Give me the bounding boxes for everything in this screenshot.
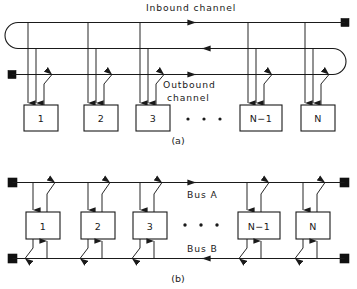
node3-b-rise-to-bus-a <box>154 183 162 213</box>
panel-a-ellipsis <box>186 117 221 120</box>
figure-root: Inbound channel Outbound channel 1 <box>0 0 357 289</box>
inbound-right-uturn <box>333 49 346 75</box>
panel-b-node-n-minus-1: N−1 <box>238 183 280 259</box>
nodeN-a-rise-outbound <box>321 75 329 106</box>
panel-a-node-3: 3 <box>136 23 170 132</box>
node1-b-drop-to-bus-b <box>25 239 33 259</box>
nodeN-a-label: N <box>314 113 322 124</box>
panel-b-ellipsis <box>183 223 218 226</box>
nodeN1-b-label: N−1 <box>248 221 270 232</box>
panel-a-node-2: 2 <box>84 23 118 132</box>
bus-b-label: Bus B <box>187 243 218 254</box>
node3-b-label: 3 <box>147 221 153 232</box>
panel-b-node-n: N <box>295 183 330 259</box>
node3-b-drop-to-bus-b <box>132 239 140 259</box>
inbound-left-uturn <box>5 23 18 49</box>
nodeN1-a-label: N−1 <box>250 113 272 124</box>
nodeN-b-label: N <box>309 221 317 232</box>
node2-b-rise-to-bus-a <box>102 183 110 213</box>
nodeN1-a-rise-outbound <box>264 75 272 106</box>
node1-a-rise-outbound <box>44 75 52 106</box>
panel-a-node-1: 1 <box>24 23 58 132</box>
node1-b-rise-to-bus-a <box>47 183 55 213</box>
node1-a-label: 1 <box>38 113 44 124</box>
nodeN1-b-drop-to-bus-b <box>239 239 247 259</box>
panel-b-node-1: 1 <box>25 183 60 259</box>
bus-a-label: Bus A <box>187 189 218 200</box>
panel-b-node-2: 2 <box>80 183 115 259</box>
node2-b-drop-to-bus-b <box>80 239 88 259</box>
outbound-channel-label-line2: channel <box>167 92 210 103</box>
panel-a-node-n-minus-1: N−1 <box>240 23 282 132</box>
node2-b-label: 2 <box>95 221 101 232</box>
nodeN1-b-rise-to-bus-a <box>261 183 269 213</box>
inbound-channel-label: Inbound channel <box>146 2 236 13</box>
panel-a-node-n: N <box>301 23 335 132</box>
nodeN-b-rise-to-bus-a <box>317 183 325 213</box>
dual-bus-network-diagram: Inbound channel Outbound channel 1 <box>0 0 357 289</box>
panel-a: Inbound channel Outbound channel 1 <box>5 2 349 146</box>
node2-a-rise-outbound <box>104 75 112 106</box>
node3-a-label: 3 <box>150 113 156 124</box>
node2-a-label: 2 <box>98 113 104 124</box>
nodeN-b-drop-to-bus-b <box>295 239 303 259</box>
panel-b-caption: (b) <box>171 273 184 284</box>
outbound-channel-label-line1: Outbound <box>163 79 216 90</box>
panel-b-node-3: 3 <box>132 183 167 259</box>
panel-a-caption: (a) <box>171 135 184 146</box>
node1-b-label: 1 <box>40 221 46 232</box>
panel-b: Bus A Bus B 1 2 <box>8 178 349 284</box>
